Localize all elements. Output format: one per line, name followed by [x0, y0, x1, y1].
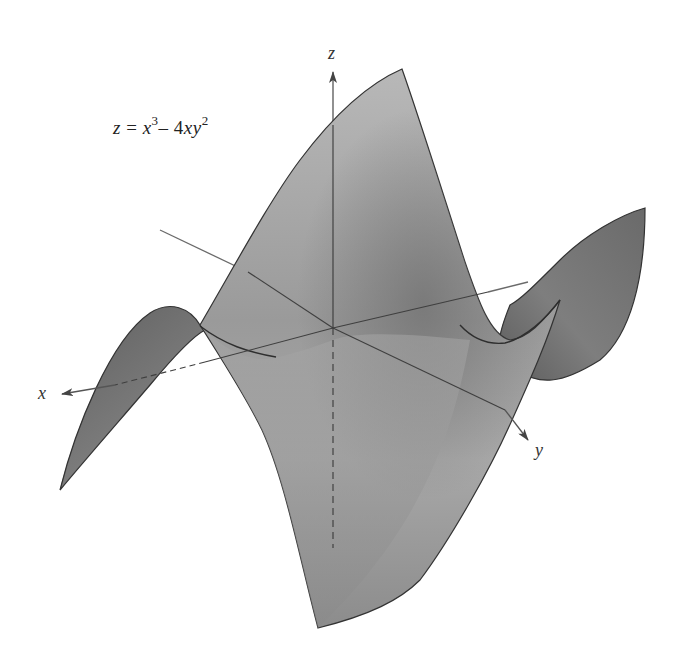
y-axis-label: y — [535, 440, 543, 461]
surface-plot-svg — [0, 0, 677, 660]
equation-term1-base: x — [143, 117, 152, 138]
z-axis-label: z — [328, 43, 335, 64]
equation-term2-base: xy — [184, 117, 202, 138]
x-axis-label: x — [38, 383, 46, 404]
equation-equals: = — [126, 117, 137, 138]
equation-lhs: z — [113, 117, 121, 138]
equation-minus: – — [159, 117, 169, 138]
equation-label: z = x3– 4xy2 — [113, 117, 209, 139]
y-axis-back — [488, 282, 528, 292]
equation-term2-exponent: 2 — [202, 113, 209, 128]
surface-plot-figure: z = x3– 4xy2 z x y — [0, 0, 677, 660]
equation-term2-coefficient: 4 — [174, 117, 184, 138]
equation-term1-exponent: 3 — [152, 113, 159, 128]
